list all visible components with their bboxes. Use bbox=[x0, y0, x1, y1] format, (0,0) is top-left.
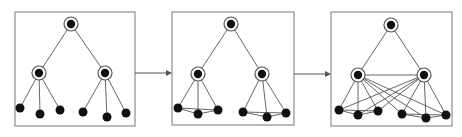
leaf-node bbox=[79, 108, 88, 117]
leaf-node bbox=[374, 107, 383, 116]
leaf-node bbox=[263, 113, 272, 122]
leaf-node bbox=[354, 111, 363, 120]
leaf-node bbox=[239, 108, 248, 117]
root-edge bbox=[71, 24, 105, 73]
cross-edge bbox=[358, 75, 446, 115]
cluster-head-node bbox=[32, 66, 46, 80]
leaf-node bbox=[194, 110, 203, 119]
root-edge bbox=[391, 25, 424, 75]
cluster-head-node bbox=[351, 68, 365, 82]
root-edge bbox=[39, 24, 71, 73]
leaf-node bbox=[398, 110, 407, 119]
leaf-node bbox=[335, 106, 344, 115]
root-edge bbox=[198, 24, 231, 74]
root-node bbox=[64, 17, 78, 31]
leaf-node bbox=[16, 104, 25, 113]
leaf-node bbox=[442, 111, 451, 120]
leaf-node bbox=[214, 106, 223, 115]
tree-network-diagram bbox=[0, 0, 462, 137]
root-edge bbox=[358, 25, 391, 75]
root-edge bbox=[231, 24, 262, 74]
cluster-head-node bbox=[255, 67, 269, 81]
leaf-node bbox=[282, 109, 291, 118]
leaf-node bbox=[174, 104, 183, 113]
leaf-node bbox=[422, 114, 431, 123]
leaf-node bbox=[103, 113, 112, 122]
cluster-head-node bbox=[191, 67, 205, 81]
root-node bbox=[384, 18, 398, 32]
leaf-node bbox=[56, 106, 65, 115]
leaf-node bbox=[122, 109, 131, 118]
leaf-node bbox=[36, 110, 45, 119]
cross-edge bbox=[378, 75, 424, 111]
cross-edge bbox=[339, 75, 424, 110]
cluster-head-node bbox=[98, 66, 112, 80]
sibling-edge bbox=[243, 112, 286, 113]
root-node bbox=[224, 17, 238, 31]
cluster-head-node bbox=[417, 68, 431, 82]
